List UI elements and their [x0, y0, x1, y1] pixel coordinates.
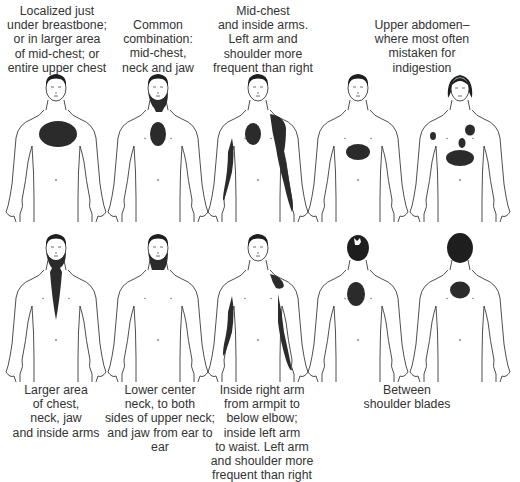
figure-upper-chest — [4, 72, 108, 222]
body-back-icon — [306, 232, 410, 382]
pain-area-right-inner-arm — [223, 138, 234, 200]
figure-chest-neck-jaw — [106, 72, 210, 222]
body-front-icon — [106, 232, 210, 382]
pain-area-right-inner-arm — [223, 296, 234, 356]
pain-area-neck-chest-wedge — [46, 252, 66, 320]
pain-area-upper-abdomen — [446, 150, 474, 166]
figure-upper-abdomen — [306, 72, 410, 222]
figure-female-front — [408, 72, 512, 222]
figure-chest-arms — [206, 72, 310, 222]
pain-area-left-chest — [465, 125, 475, 136]
label-bottom-3: Inside right arm from armpit to below el… — [210, 383, 314, 482]
body-front-icon — [206, 232, 310, 382]
pain-area-upper-abdomen — [346, 144, 370, 160]
label-bottom-2: Lower center neck, to both sides of uppe… — [104, 383, 216, 454]
pain-area-between-shoulder-blades — [347, 282, 365, 306]
label-top-2: Common combination: mid-chest, neck and … — [108, 18, 208, 75]
body-front-icon — [306, 72, 410, 222]
body-front-female-icon — [408, 72, 512, 222]
label-bottom-1: Larger area of chest, neck, jaw and insi… — [6, 383, 106, 440]
body-front-icon — [106, 72, 210, 222]
pain-area-upper-chest — [39, 121, 77, 147]
figure-inner-arms — [206, 232, 310, 382]
pain-area-between-shoulder-blades — [450, 282, 470, 299]
label-top-4: Upper abdomen– where most often mistaken… — [362, 18, 482, 75]
figure-back-female — [408, 232, 512, 382]
pain-area-mid-chest — [150, 122, 166, 146]
figure-neck-jaw — [106, 232, 210, 382]
pain-area-mid-chest — [245, 123, 261, 145]
figure-back-male — [306, 232, 410, 382]
label-top-3: Mid-chest and inside arms. Left arm and … — [204, 4, 322, 75]
label-top-1: Localized just under breastbone; or in l… — [2, 4, 112, 75]
pain-area-mid-chest — [459, 138, 466, 148]
body-front-icon — [206, 72, 310, 222]
body-front-icon — [4, 72, 108, 222]
label-bottom-4: Between shoulder blades — [352, 383, 462, 411]
pain-area-left-shoulder-arm — [270, 114, 293, 212]
body-front-icon — [4, 232, 108, 382]
pain-area-right-arm — [430, 132, 436, 140]
body-back-female-icon — [408, 232, 512, 382]
figure-chest-neck-jaw-arms — [4, 232, 108, 382]
